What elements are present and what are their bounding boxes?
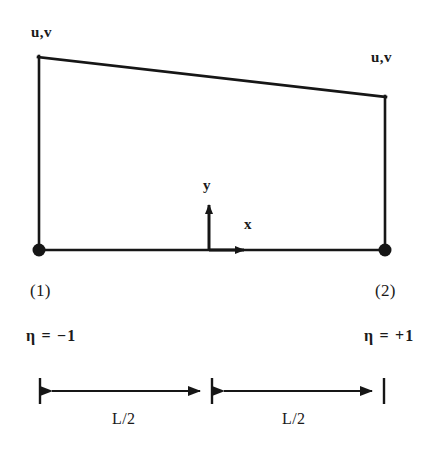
eta-label-node-1: η = −1 [26,328,77,344]
finite-element-diagram: u,v u,v y x (1) (2) η = −1 η = +1 L/2 L/… [0,0,443,452]
eta-label-node-2: η = +1 [364,328,415,344]
element-outline [38,56,386,251]
local-axes [209,205,244,250]
node-dot-2 [379,244,392,257]
dimension-label-left: L/2 [112,411,135,427]
element-top-edge [38,57,386,97]
y-axis-label: y [203,178,211,193]
dof-label-node-2: u,v [371,50,392,65]
x-axis-label: x [244,217,252,232]
diagram-canvas [0,0,443,452]
node-number-label-2: (2) [375,282,396,299]
dimension-line-group [40,378,384,404]
dimension-label-right: L/2 [282,411,305,427]
node-dot-1 [33,244,46,257]
dof-label-node-1: u,v [31,25,52,40]
node-number-label-1: (1) [30,282,51,299]
